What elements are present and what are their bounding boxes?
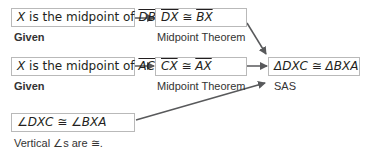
- statement-box-vertical-angles: ∠DXC ≅ ∠BXA: [11, 113, 135, 132]
- statement-box-cx-congruent-ax: CX ≅ AX: [155, 57, 247, 76]
- reason-given-2: Given: [14, 80, 45, 92]
- statement-box-dx-congruent-bx: DX ≅ BX: [155, 8, 247, 27]
- var-x: X: [17, 59, 25, 73]
- segment-ac: AC: [138, 59, 155, 73]
- reason-sas: SAS: [274, 80, 296, 92]
- segment-cx: CX: [161, 59, 178, 73]
- reason-vertical-angles: Vertical ∠s are ≅.: [14, 137, 103, 149]
- statement-box-midpoint-db: X is the midpoint of DB.: [11, 8, 135, 27]
- segment-ax: AX: [195, 59, 211, 73]
- reason-midpoint-theorem-1: Midpoint Theorem: [157, 31, 245, 43]
- segment-db: DB: [138, 10, 155, 24]
- statement-box-triangle-congruence: ΔDXC ≅ ΔBXA: [268, 57, 360, 76]
- reason-given-1: Given: [14, 31, 45, 43]
- arrow-s2-s6: [247, 23, 266, 54]
- statement-box-midpoint-ac: X is the midpoint of AC.: [11, 57, 135, 76]
- var-x: X: [17, 10, 25, 24]
- segment-dx: DX: [161, 10, 178, 24]
- reason-midpoint-theorem-2: Midpoint Theorem: [157, 80, 245, 92]
- segment-bx: BX: [196, 10, 212, 24]
